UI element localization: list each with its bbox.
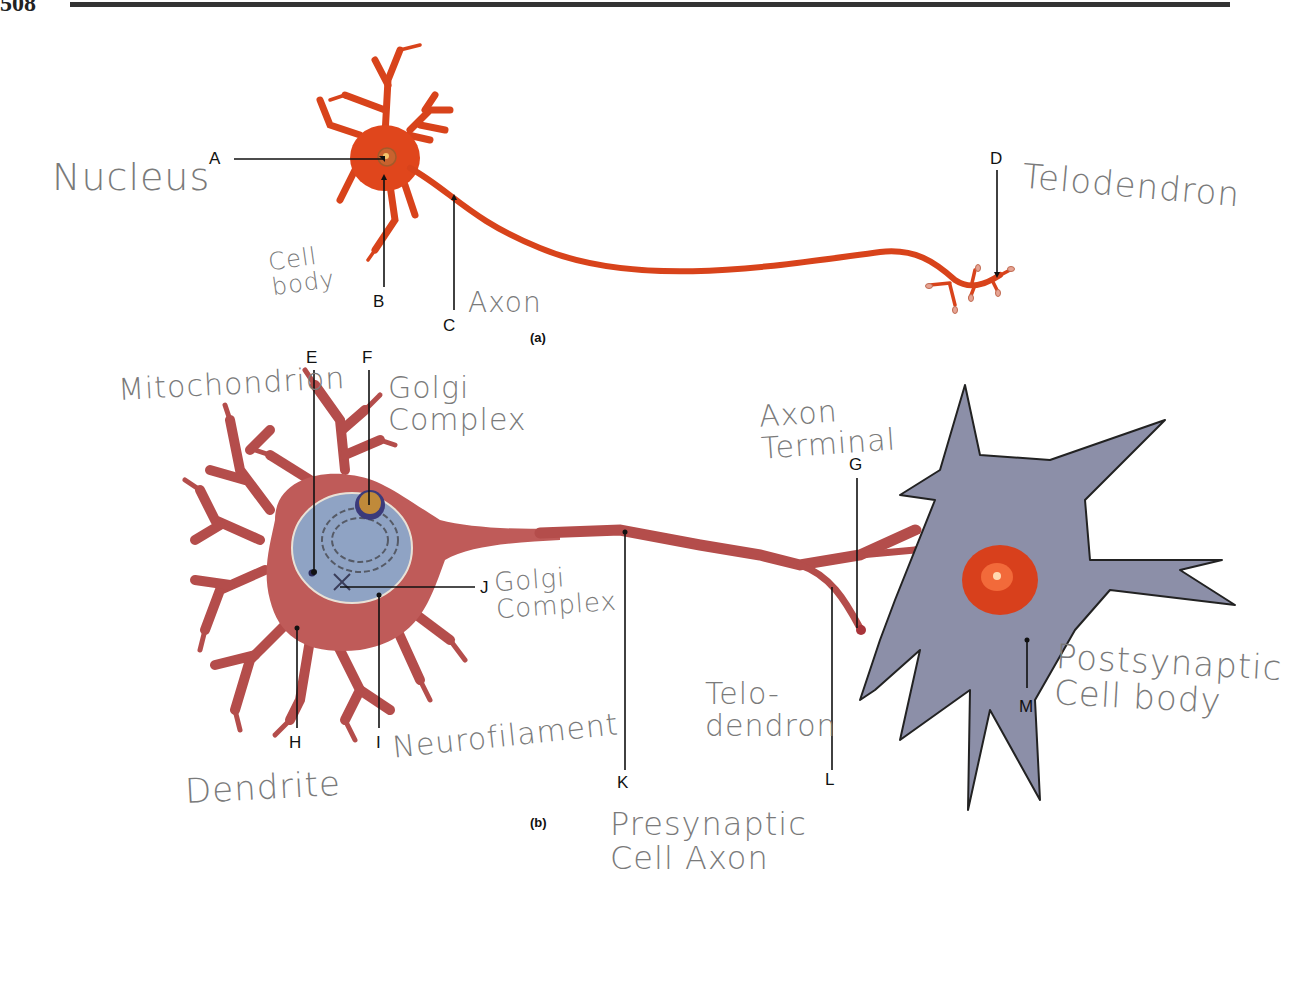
- answer-a-nucleus: Nucleus: [52, 158, 210, 198]
- label-i: I: [376, 733, 381, 753]
- panel-label-b: (b): [530, 815, 547, 830]
- neuron-a-illustration: [320, 45, 1015, 314]
- answer-c-axon: Axon: [468, 288, 542, 317]
- label-m: M: [1019, 697, 1033, 717]
- answer-j-golgi-complex: Golgi Complex: [493, 561, 618, 624]
- answer-g-axon-terminal: Axon Terminal: [758, 391, 897, 463]
- answer-h-dendrite: Dendrite: [184, 766, 342, 810]
- answer-l-telodendron: Telo- dendron: [705, 678, 837, 741]
- label-a: A: [209, 149, 220, 169]
- answer-k-presynaptic-cell-axon: Presynaptic Cell Axon: [610, 808, 807, 875]
- label-h: H: [289, 733, 301, 753]
- label-f: F: [362, 348, 372, 368]
- answer-f-golgi-complex: Golgi Complex: [388, 372, 527, 435]
- label-k: K: [617, 773, 628, 793]
- label-c: C: [443, 316, 455, 336]
- label-b: B: [373, 292, 384, 312]
- answer-b-cell-body: Cell body: [267, 242, 337, 301]
- answer-m-postsynaptic-cell-body: Postsynaptic Cell body: [1053, 639, 1283, 722]
- label-d: D: [990, 149, 1002, 169]
- label-l: L: [825, 770, 834, 790]
- panel-label-a: (a): [530, 330, 546, 345]
- postsynaptic-cell-illustration: [860, 385, 1235, 810]
- label-j: J: [480, 578, 489, 598]
